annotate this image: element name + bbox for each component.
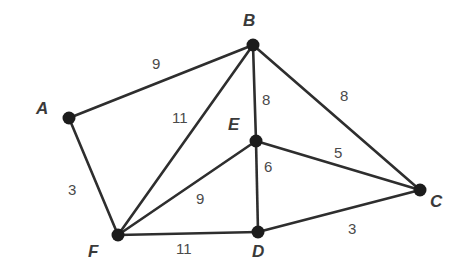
edge-b-f <box>118 45 253 235</box>
vertex-label-d: D <box>252 243 264 260</box>
edge-weight-d-c: 3 <box>348 221 356 236</box>
edge-b-e <box>253 45 256 141</box>
edge-e-d <box>256 141 258 232</box>
vertex-label-b: B <box>243 12 255 29</box>
vertex-label-c: C <box>430 193 442 210</box>
vertex-d <box>252 226 265 239</box>
edge-weight-e-d: 6 <box>264 159 272 174</box>
graph-svg <box>0 0 465 273</box>
vertex-label-e: E <box>228 116 239 133</box>
edge-b-c <box>253 45 420 190</box>
nodes-group <box>63 39 427 242</box>
edge-weight-b-c: 8 <box>340 88 348 103</box>
edge-e-f <box>118 141 256 235</box>
edge-d-c <box>258 190 420 232</box>
vertex-a <box>63 112 76 125</box>
vertex-e <box>250 135 263 148</box>
edge-weight-e-f: 9 <box>196 191 204 206</box>
edge-weight-e-c: 5 <box>334 145 342 160</box>
edge-weight-b-e: 8 <box>262 92 270 107</box>
edges-group <box>69 45 420 235</box>
edge-weight-f-d: 11 <box>176 241 192 256</box>
vertex-label-a: A <box>36 100 48 117</box>
graph-diagram: 931188569113ABCDEF <box>0 0 465 273</box>
edge-a-f <box>69 118 118 235</box>
edge-weight-b-f: 11 <box>172 110 188 125</box>
edge-a-b <box>69 45 253 118</box>
edge-f-d <box>118 232 258 235</box>
vertex-c <box>414 184 427 197</box>
edge-weight-a-b: 9 <box>152 56 160 71</box>
edge-weight-a-f: 3 <box>68 182 76 197</box>
vertex-b <box>247 39 260 52</box>
vertex-f <box>112 229 125 242</box>
vertex-label-f: F <box>88 243 98 260</box>
